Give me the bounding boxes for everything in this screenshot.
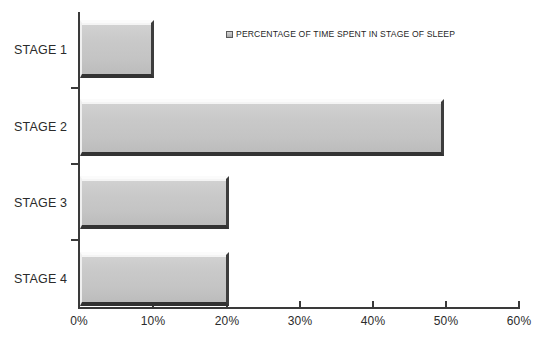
bar-chart: 0% 10% 20% 30% 40% 50% 60% STAGE 1 STAGE… (0, 0, 540, 351)
x-tick-label-6: 60% (507, 314, 531, 328)
bar-stage-1 (80, 20, 154, 78)
y-tick-0 (71, 87, 79, 89)
bar-stage-2 (80, 99, 444, 156)
y-tick-2 (71, 239, 79, 241)
x-tick-label-5: 50% (434, 314, 458, 328)
bar-stage-3 (80, 176, 229, 229)
y-category-label-stage-2: STAGE 2 (14, 120, 67, 134)
x-tick-5 (445, 301, 447, 308)
x-tick-label-0: 0% (70, 314, 88, 328)
legend-swatch-icon (226, 31, 233, 38)
y-category-label-stage-4: STAGE 4 (14, 272, 67, 286)
y-category-label-stage-1: STAGE 1 (14, 43, 67, 57)
x-tick-label-3: 30% (288, 314, 312, 328)
x-tick-6 (518, 301, 520, 308)
x-tick-4 (372, 301, 374, 308)
legend-label-series-1: PERCENTAGE OF TIME SPENT IN STAGE OF SLE… (236, 29, 455, 39)
x-tick-label-4: 40% (361, 314, 385, 328)
y-category-label-stage-3: STAGE 3 (14, 196, 67, 210)
x-tick-label-1: 10% (141, 314, 165, 328)
x-tick-3 (299, 301, 301, 308)
chart-legend: PERCENTAGE OF TIME SPENT IN STAGE OF SLE… (226, 29, 455, 39)
y-tick-1 (71, 163, 79, 165)
bar-stage-4 (80, 252, 229, 306)
x-tick-label-2: 20% (215, 314, 239, 328)
